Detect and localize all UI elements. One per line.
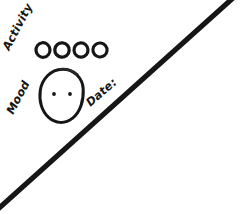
activity-circle-2[interactable] [54, 42, 70, 57]
diagonal-rule-line[interactable] [0, 0, 233, 209]
activity-circle-icon [35, 42, 50, 58]
sketch-canvas: Activity Mood Date: [0, 0, 249, 214]
activity-circle-icon [74, 42, 89, 57]
activity-circle-4[interactable] [92, 42, 108, 58]
face-left-eye-icon [52, 92, 56, 96]
sketch-drawing-surface [0, 0, 249, 214]
activity-circle-3[interactable] [74, 42, 89, 57]
face-outline-overstroke [60, 69, 78, 74]
face-right-eye-icon [68, 92, 72, 96]
activity-circle-icon [54, 42, 70, 57]
activity-circle-icon [92, 42, 108, 58]
activity-circle-1[interactable] [35, 42, 50, 58]
activity-circle-group [35, 42, 108, 58]
neutral-face-icon[interactable] [40, 69, 83, 122]
diagonal-rule-stroke [0, 0, 233, 209]
face-outline [40, 69, 83, 122]
